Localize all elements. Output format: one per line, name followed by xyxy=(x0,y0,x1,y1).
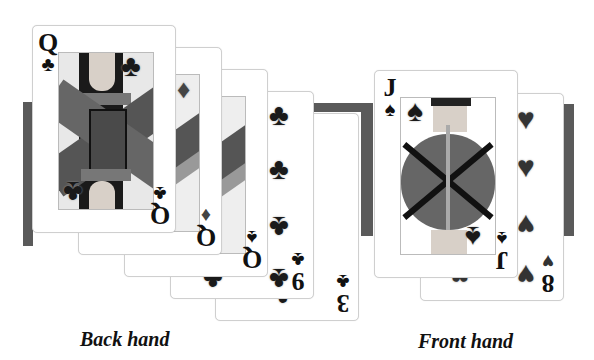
back-hand-label: Back hand xyxy=(80,328,169,351)
club-pip-icon: ♣ xyxy=(269,212,289,242)
card-index-bottom: Q♦ xyxy=(195,206,217,250)
card-index-top: Q♣ xyxy=(37,30,59,74)
club-pip-icon: ♣ xyxy=(269,100,289,130)
spade-icon: ♠ xyxy=(407,97,423,126)
card-index-bottom: Q♣ xyxy=(149,184,171,228)
diamond-icon: ♦ xyxy=(177,77,190,103)
card-index-bottom: J♠ xyxy=(491,229,513,273)
club-pip-icon: ♣ xyxy=(269,264,289,294)
card-index-bottom: 3♣ xyxy=(332,272,354,316)
queen-portrait-image: ♣ ♣ xyxy=(58,52,154,210)
club-icon: ♣ xyxy=(121,52,141,81)
card-index-bottom: Q♠ xyxy=(241,228,263,272)
card-queen-clubs[interactable]: Q♣ ♣ ♣ Q♣ xyxy=(32,25,176,233)
heart-pip-icon: ♥ xyxy=(517,104,535,134)
table-frame-right xyxy=(563,104,574,236)
heart-pip-icon: ♥ xyxy=(517,152,535,182)
front-hand-label: Front hand xyxy=(418,330,513,353)
jack-portrait-image: ♠ ♠ xyxy=(400,97,496,255)
heart-pip-icon: ♥ xyxy=(517,210,535,240)
card-index-bottom: 9♣ xyxy=(287,250,309,294)
club-pip-icon: ♣ xyxy=(269,154,289,184)
heart-pip-icon: ♥ xyxy=(517,260,535,290)
spade-icon: ♠ xyxy=(465,222,481,252)
card-index-top: J♠ xyxy=(379,75,401,119)
club-icon: ♣ xyxy=(63,177,83,207)
table-frame-mid xyxy=(361,103,373,236)
card-index-bottom: 8♥ xyxy=(537,252,559,296)
card-jack-spades[interactable]: J♠ ♠ ♠ J♠ xyxy=(374,70,518,278)
